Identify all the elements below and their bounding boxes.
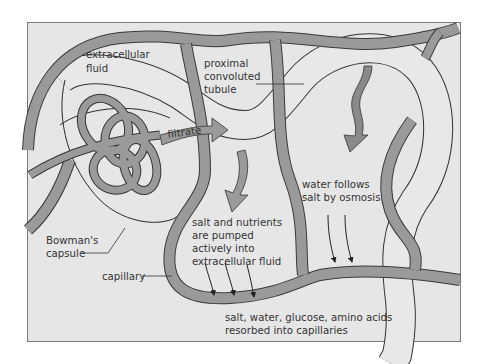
nephron-diagram: filtrate extracellular fluid proximal co… — [0, 0, 491, 364]
capillary-label: capillary — [102, 271, 145, 282]
